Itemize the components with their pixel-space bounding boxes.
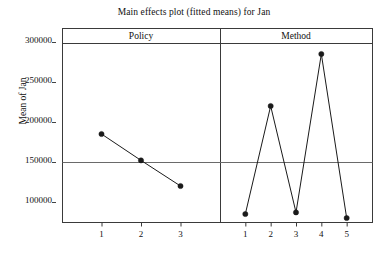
main-effects-plot-figure: Main effects plot (fitted means) for Jan… [0,0,388,258]
plot-frame [63,29,373,223]
plot-area [0,0,388,258]
data-series-group [99,51,349,226]
